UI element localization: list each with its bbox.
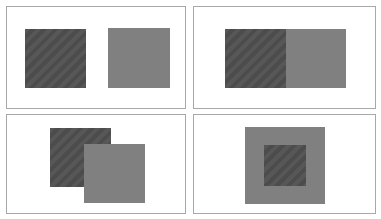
dark-square — [225, 29, 286, 88]
panel-overlapping-squares — [6, 114, 186, 214]
gray-square — [108, 28, 170, 88]
panel-adjacent-squares — [193, 6, 376, 109]
gray-square — [286, 29, 346, 88]
dark-inner-square — [264, 145, 306, 186]
dark-square — [25, 29, 86, 88]
gray-square — [84, 144, 145, 203]
panel-nested-squares — [193, 114, 376, 214]
panel-separated-squares — [6, 6, 186, 109]
